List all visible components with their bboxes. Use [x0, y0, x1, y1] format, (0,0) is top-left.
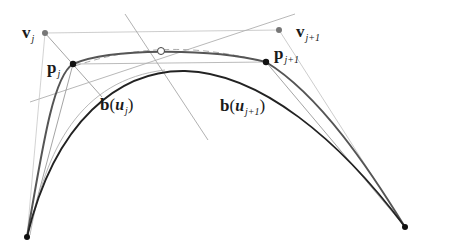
label-p-j1-sub: j+1 [284, 54, 299, 65]
label-v-j-base: v [22, 23, 31, 42]
point-end-left [24, 234, 30, 240]
label-p-j1-base: p [274, 44, 283, 63]
line-pj-pj1 [73, 62, 266, 64]
label-b-u-j-var: u [115, 96, 124, 113]
point-pj [70, 61, 76, 67]
label-b-u-j-sub: j [125, 105, 128, 116]
main-curve [27, 71, 405, 237]
label-p-j: pj [47, 58, 60, 78]
light-arc [30, 70, 165, 235]
label-v-j-sub: j [32, 33, 35, 44]
label-p-j-sub: j [57, 68, 60, 79]
label-b-u-j1-sub: j+1 [245, 106, 260, 117]
label-v-j: vj [22, 23, 34, 43]
label-v-j1: vj+1 [296, 22, 320, 42]
line-vj-vj1 [45, 30, 279, 33]
diagonal-line-center [125, 14, 208, 140]
label-b-u-j-close: ) [128, 95, 134, 114]
line-pj1-right-end [266, 62, 405, 227]
label-p-j1: pj+1 [274, 44, 299, 64]
label-b-u-j: b(uj) [100, 95, 134, 115]
tangent-line-left [30, 14, 295, 102]
label-b-u-j1-var: u [235, 97, 244, 114]
point-vj [42, 30, 48, 36]
point-end-right [402, 224, 408, 230]
label-b-u-j1-close: ) [260, 96, 266, 115]
point-pj1 [263, 59, 269, 65]
label-b-u-j1: b(uj+1) [220, 96, 265, 116]
label-v-j1-sub: j+1 [306, 32, 321, 43]
point-vj1 [276, 27, 282, 33]
middle-curve [27, 52, 405, 237]
curve-diagram [0, 0, 449, 252]
label-v-j1-base: v [296, 22, 305, 41]
point-midpoint-open [158, 48, 165, 55]
label-p-j-base: p [47, 58, 56, 77]
